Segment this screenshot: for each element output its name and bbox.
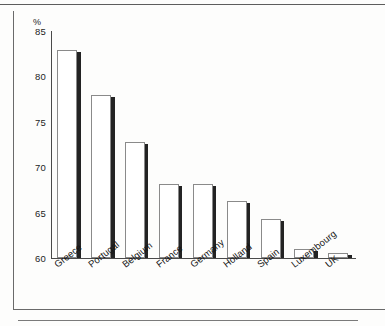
y-tick-label: 80 [26, 71, 46, 82]
bar-body [91, 95, 111, 258]
bar [91, 95, 115, 258]
y-axis-tick-labels: 606570758085 [24, 0, 46, 326]
bar-shadow [348, 255, 352, 258]
bar [57, 50, 81, 258]
y-tick-label: 85 [26, 26, 46, 37]
y-tick-label: 60 [26, 253, 46, 264]
bar-chart: % 606570758085 GreecePortugalBelgiumFran… [0, 0, 385, 326]
y-tick-label: 70 [26, 162, 46, 173]
bar-body [57, 50, 77, 258]
bar-shadow [281, 221, 285, 258]
bar-body [125, 142, 145, 258]
bar-shadow [111, 97, 115, 258]
x-axis-category-labels: GreecePortugalBelgiumFranceGermanyHollan… [51, 261, 371, 323]
bar-shadow [77, 52, 81, 258]
y-tick-label: 75 [26, 116, 46, 127]
y-tick-label: 65 [26, 207, 46, 218]
